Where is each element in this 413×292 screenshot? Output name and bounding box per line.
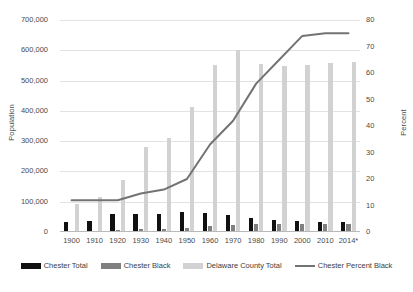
legend-label: Chester Total xyxy=(44,262,88,270)
x-tick-label: 1900 xyxy=(60,236,83,245)
bar xyxy=(110,214,114,232)
bar-group xyxy=(110,20,125,232)
bar xyxy=(180,212,184,232)
y-tick-label-left: 300,000 xyxy=(0,136,48,145)
x-tick-label: 1910 xyxy=(83,236,106,245)
bar-group xyxy=(249,20,264,232)
x-tick-label: 1940 xyxy=(152,236,175,245)
bar xyxy=(328,63,332,232)
legend-color-swatch xyxy=(101,263,121,269)
chart-legend: Chester TotalChester BlackDelaware Count… xyxy=(0,262,413,270)
y-tick-label-left: 200,000 xyxy=(0,166,48,175)
bar xyxy=(121,180,125,232)
bar-group xyxy=(157,20,172,232)
legend-color-swatch xyxy=(21,263,41,269)
y-tick-label-right: 0 xyxy=(366,227,396,236)
bar xyxy=(236,50,240,232)
bar xyxy=(203,213,207,232)
bar xyxy=(259,64,263,232)
axis-baseline xyxy=(60,231,360,232)
bar xyxy=(144,147,148,232)
bar xyxy=(352,62,356,232)
y-tick-label-left: 600,000 xyxy=(0,45,48,54)
bar xyxy=(249,218,253,232)
legend-item[interactable]: Chester Black xyxy=(101,262,171,270)
y-tick-label-left: 100,000 xyxy=(0,197,48,206)
legend-label: Delaware County Total xyxy=(206,262,281,270)
legend-item[interactable]: Chester Total xyxy=(21,262,88,270)
x-tick-label: 1980 xyxy=(245,236,268,245)
x-tick-label: 1960 xyxy=(198,236,221,245)
y-tick-label-right: 30 xyxy=(366,148,396,157)
bar xyxy=(75,204,79,232)
bar xyxy=(305,65,309,232)
x-tick-label: 2000 xyxy=(291,236,314,245)
bar-group xyxy=(272,20,287,232)
bar xyxy=(133,214,137,232)
bar xyxy=(167,138,171,232)
y-tick-label-right: 70 xyxy=(366,42,396,51)
x-tick-label: 1990 xyxy=(268,236,291,245)
bar-group xyxy=(203,20,218,232)
bar xyxy=(213,65,217,232)
bar-group xyxy=(180,20,195,232)
bar-group xyxy=(318,20,333,232)
chart-container: Population Percent 0100,000200,000300,00… xyxy=(0,0,413,292)
x-tick-label: 1970 xyxy=(222,236,245,245)
y-tick-label-left: 400,000 xyxy=(0,106,48,115)
bar xyxy=(190,107,194,232)
y-tick-label-right: 10 xyxy=(366,201,396,210)
legend-label: Chester Black xyxy=(124,262,171,270)
y-tick-label-right: 40 xyxy=(366,121,396,130)
y-tick-label-right: 80 xyxy=(366,15,396,24)
bar-group xyxy=(133,20,148,232)
y-tick-label-left: 700,000 xyxy=(0,15,48,24)
bar-group xyxy=(341,20,356,232)
x-tick-label: 1950 xyxy=(175,236,198,245)
legend-line-swatch xyxy=(295,265,315,267)
legend-item[interactable]: Delaware County Total xyxy=(183,262,281,270)
y-tick-label-right: 60 xyxy=(366,68,396,77)
legend-label: Chester Percent Black xyxy=(318,262,393,270)
plot-area xyxy=(60,20,360,232)
y-tick-label-left: 500,000 xyxy=(0,76,48,85)
bar xyxy=(282,66,286,232)
bar xyxy=(98,197,102,232)
bar-group xyxy=(295,20,310,232)
bar-group xyxy=(64,20,79,232)
bar xyxy=(157,214,161,232)
y-tick-label-right: 20 xyxy=(366,174,396,183)
legend-color-swatch xyxy=(183,263,203,269)
y-tick-label-left: 0 xyxy=(0,227,48,236)
bar-group xyxy=(87,20,102,232)
x-tick-label: 1930 xyxy=(129,236,152,245)
legend-item[interactable]: Chester Percent Black xyxy=(295,262,393,270)
y-axis-label-right: Percent xyxy=(399,93,408,153)
x-tick-label: 1920 xyxy=(106,236,129,245)
y-tick-label-right: 50 xyxy=(366,95,396,104)
bar-group xyxy=(226,20,241,232)
x-tick-label: 2010 xyxy=(314,236,337,245)
x-tick-label: 2014* xyxy=(337,236,360,245)
bar xyxy=(226,215,230,232)
